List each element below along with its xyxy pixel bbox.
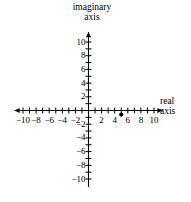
imaginary-axis-arrow-top [86,32,91,37]
y-axis-tick-label: −6 [66,147,86,156]
imaginary-axis-title: imaginary axis [52,2,132,22]
y-axis-tick-label: 6 [66,65,86,74]
y-axis-tick-label: 10 [66,38,86,47]
y-axis-tick-label: 4 [66,79,86,88]
real-axis-title-line2: axis [160,106,191,116]
x-axis-tick-label: 10 [145,116,163,125]
y-axis-tick-label: 2 [66,92,86,101]
y-axis-tick-label: −2 [66,120,86,129]
y-axis-tick-label: −10 [66,175,86,184]
y-axis-tick-label: −4 [66,133,86,142]
imaginary-axis-title-line2: axis [52,12,132,22]
complex-plane-figure: imaginary axis real axis −10−8−6−4−22468… [0,0,191,202]
imaginary-axis-title-line1: imaginary [52,2,132,12]
y-axis-tick-label: −8 [66,161,86,170]
real-axis-title: real axis [160,96,191,116]
y-axis-tick-label: 8 [66,51,86,60]
real-axis-arrow-left [14,108,19,113]
real-axis-title-line1: real [160,96,191,106]
